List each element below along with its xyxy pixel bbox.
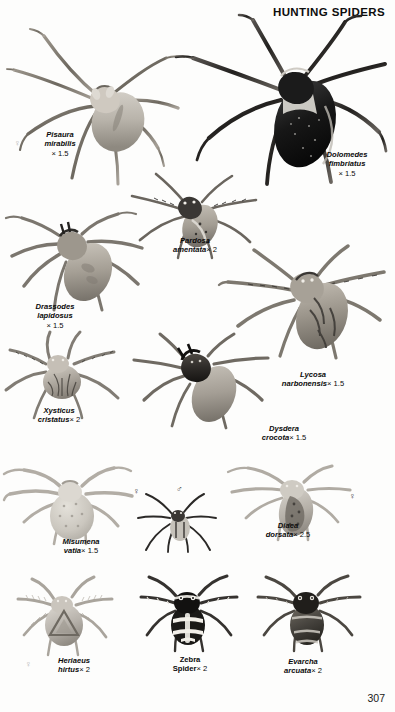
caption-xysticus-cristatus: Xysticus cristatus× 2	[16, 406, 102, 425]
caption-genus: Lycosa	[258, 370, 368, 379]
caption-common-name-line2: Spider	[173, 664, 197, 673]
caption-pardosa-amentata: Pardosa amentata× 2	[152, 236, 238, 255]
caption-evarcha-arcuata: Evarcha arcuata× 2	[258, 657, 348, 676]
caption-magnification: × 1.5	[327, 379, 344, 388]
caption-magnification: × 2	[311, 666, 322, 675]
caption-drassodes-lapidosus: Drassodes lapidosus × 1.5	[14, 302, 96, 330]
caption-species: fimbriatus	[306, 159, 388, 168]
caption-genus: Evarcha	[258, 657, 348, 666]
caption-magnification: × 2	[196, 664, 207, 673]
caption-species: arcuata	[284, 666, 311, 675]
caption-species: vatia	[64, 546, 81, 555]
caption-magnification: × 1.5	[338, 169, 355, 178]
spider-illustration-evarcha-arcuata	[252, 575, 367, 653]
caption-species: narbonensis	[282, 379, 327, 388]
caption-species: amentata	[173, 245, 206, 254]
spider-illustration-zebra-spider	[135, 575, 245, 653]
sex-symbol-female-pisaura: ♀	[14, 139, 21, 148]
caption-magnification: × 2	[206, 245, 217, 254]
caption-genus: Dolomedes	[306, 150, 388, 159]
caption-dysdera-crocota: Dysdera crocota× 1.5	[238, 424, 330, 443]
caption-dolomedes-fimbriatus: Dolomedes fimbriatus × 1.5	[306, 150, 388, 178]
caption-zebra-spider: Zebra Spider× 2	[148, 655, 232, 674]
caption-genus: Pisaura	[24, 130, 96, 139]
caption-species: crocota	[262, 433, 289, 442]
caption-magnification: × 2.5	[293, 530, 310, 539]
caption-magnification: × 2	[69, 415, 80, 424]
sex-symbol-male-misumena: ♂	[176, 485, 183, 494]
page-number: 307	[367, 692, 385, 704]
caption-common-name-line1: Zebra	[148, 655, 232, 664]
caption-magnification: × 1.5	[81, 546, 98, 555]
sex-symbol-female-diaea: ♀	[349, 492, 356, 501]
sex-symbol-female-heriaeus: ♀	[25, 660, 32, 669]
spider-illustration-heriaeus-hirtus	[10, 575, 120, 657]
caption-species: mirabilis	[24, 139, 96, 148]
sex-symbol-female-misumena: ♀	[133, 487, 140, 496]
caption-genus: Drassodes	[14, 302, 96, 311]
caption-genus: Pardosa	[152, 236, 238, 245]
book-page: HUNTING SPIDERS	[0, 0, 395, 712]
caption-species: dorsata	[266, 530, 293, 539]
caption-magnification: × 1.5	[51, 149, 68, 158]
caption-lycosa-narbonensis: Lycosa narbonensis× 1.5	[258, 370, 368, 389]
caption-species: lapidosus	[14, 311, 96, 320]
caption-diaea-dorsata: Diaea dorsata× 2.5	[243, 521, 333, 540]
caption-genus: Dysdera	[238, 424, 330, 433]
spider-illustration-pisaura-mirabilis	[6, 26, 196, 191]
caption-species: hirtus	[58, 665, 79, 674]
spider-illustration-misumena-vatia-female	[2, 462, 137, 547]
caption-magnification: × 1.5	[46, 321, 63, 330]
caption-magnification: × 2	[79, 665, 90, 674]
caption-genus: Heriaeus	[34, 656, 114, 665]
caption-heriaeus-hirtus: Heriaeus hirtus× 2	[34, 656, 114, 675]
caption-genus: Misumena	[38, 537, 124, 546]
caption-misumena-vatia: Misumena vatia× 1.5	[38, 537, 124, 556]
caption-pisaura-mirabilis: Pisaura mirabilis × 1.5	[24, 130, 96, 158]
caption-species: cristatus	[38, 415, 70, 424]
caption-genus: Diaea	[243, 521, 333, 530]
caption-magnification: × 1.5	[289, 433, 306, 442]
spider-illustration-misumena-vatia-male	[136, 492, 221, 554]
caption-genus: Xysticus	[16, 406, 102, 415]
